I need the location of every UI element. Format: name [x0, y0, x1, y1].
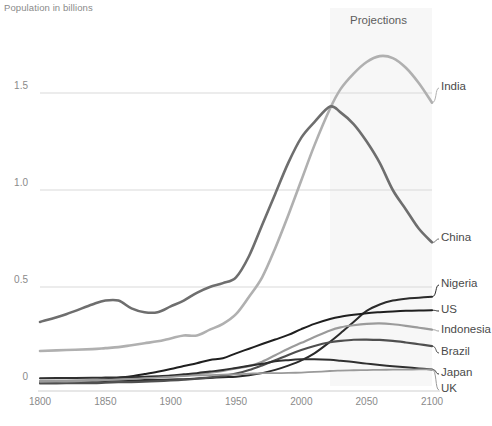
series-label-india: India	[441, 80, 466, 92]
leader-line-indonesia	[432, 330, 439, 331]
x-tick-2000: 2000	[281, 396, 321, 407]
x-tick-1800: 1800	[20, 396, 60, 407]
leader-line-nigeria	[432, 285, 439, 297]
x-tick-1850: 1850	[85, 396, 125, 407]
series-label-brazil: Brazil	[441, 345, 470, 357]
leader-line-us	[432, 310, 439, 311]
projections-annotation-label: Projections	[350, 14, 407, 26]
series-label-japan: Japan	[441, 366, 472, 378]
y-tick-0: 0	[2, 371, 28, 382]
x-tick-1950: 1950	[216, 396, 256, 407]
x-tick-2100: 2100	[412, 396, 452, 407]
label-leader-lines-group	[432, 88, 439, 390]
leader-line-brazil	[432, 346, 439, 353]
series-label-nigeria: Nigeria	[441, 277, 477, 289]
leader-line-uk	[432, 369, 439, 390]
x-tick-2050: 2050	[347, 396, 387, 407]
leader-line-china	[432, 239, 439, 242]
leader-line-india	[432, 88, 439, 103]
series-label-china: China	[441, 231, 471, 243]
plot-area	[0, 0, 492, 426]
y-tick-0.5: 0.5	[2, 274, 28, 285]
series-label-us: US	[441, 303, 457, 315]
series-label-uk: UK	[441, 382, 457, 394]
y-tick-1.0: 1.0	[2, 177, 28, 188]
population-line-chart: Population in billions Projections 00.51…	[0, 0, 492, 426]
chart-title: Population in billions	[4, 2, 93, 13]
x-tick-1900: 1900	[151, 396, 191, 407]
series-label-indonesia: Indonesia	[441, 323, 491, 335]
y-tick-1.5: 1.5	[2, 80, 28, 91]
